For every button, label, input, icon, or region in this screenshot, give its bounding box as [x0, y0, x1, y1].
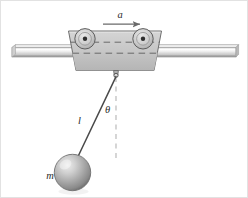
- wheel-left: [75, 29, 95, 49]
- pendulum-cart-diagram: a θ l m: [0, 0, 248, 198]
- acceleration-label: a: [117, 9, 122, 20]
- acceleration-arrow-group: a: [103, 9, 140, 24]
- cart-lower-shade: [72, 53, 157, 71]
- wheel-left-axle-dot: [83, 37, 87, 41]
- physics-diagram-figure: a θ l m: [0, 0, 248, 198]
- pendulum-bob: [54, 154, 90, 194]
- mass-label: m: [46, 170, 54, 181]
- wheel-right-axle-dot: [141, 37, 145, 41]
- bob-sphere: [54, 154, 90, 190]
- wheel-right: [133, 29, 153, 49]
- angle-theta-label: θ: [105, 104, 110, 115]
- string-length-label: l: [78, 115, 81, 126]
